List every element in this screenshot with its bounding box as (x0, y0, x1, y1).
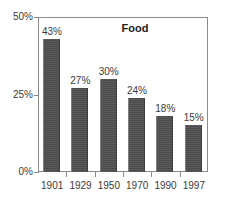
bar[interactable] (71, 88, 88, 172)
x-axis-tick-mark (151, 172, 152, 177)
bar[interactable] (128, 98, 145, 172)
bar-texture (128, 98, 145, 172)
y-axis-tick-label-25: 25% (13, 90, 33, 100)
bar-group: 24% (123, 17, 151, 172)
bar-texture (71, 88, 88, 172)
y-axis-tick-label-50: 50% (13, 12, 33, 22)
x-axis: 190119291950197019901997 (38, 180, 208, 196)
y-axis: 50% 25% 0% (0, 0, 33, 206)
bars-container: 43%27%30%24%18%15% (38, 17, 208, 172)
bar-group: 43% (38, 17, 66, 172)
x-axis-tick-mark (180, 172, 181, 177)
x-axis-tick-mark (95, 172, 96, 177)
bar-group: 27% (66, 17, 94, 172)
bar-chart: 50% 25% 0% Food 43%27%30%24%18%15% 19011… (0, 0, 229, 206)
y-axis-tick-mark-0 (34, 172, 39, 173)
bar-texture (185, 125, 202, 172)
bar-group: 18% (151, 17, 179, 172)
x-axis-tick-label: 1997 (177, 180, 211, 192)
bar-group: 15% (180, 17, 208, 172)
x-axis-tick-mark (123, 172, 124, 177)
bar-texture (156, 116, 173, 172)
x-axis-tick-mark (66, 172, 67, 177)
y-axis-tick-label-0: 0% (19, 167, 33, 177)
bar[interactable] (43, 39, 60, 172)
bar[interactable] (156, 116, 173, 172)
bar[interactable] (185, 125, 202, 172)
bar[interactable] (100, 79, 117, 172)
bar-texture (100, 79, 117, 172)
bar-value-label: 15% (174, 113, 214, 123)
bar-texture (43, 39, 60, 172)
